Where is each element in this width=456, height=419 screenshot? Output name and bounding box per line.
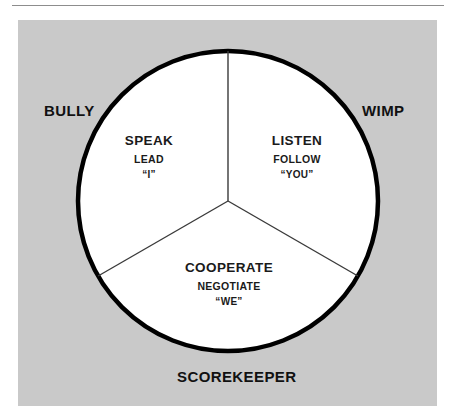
top-divider-rule [12, 5, 444, 6]
outer-label-bully: BULLY [44, 102, 95, 119]
sector-listen-title: LISTEN [252, 134, 342, 148]
sector-listen-pronoun: “YOU” [252, 170, 342, 180]
sector-label-cooperate: COOPERATE NEGOTIATE “WE” [173, 261, 285, 307]
outer-label-wimp: WIMP [362, 102, 404, 119]
sector-cooperate-pronoun: “WE” [173, 297, 285, 307]
sector-label-listen: LISTEN FOLLOW “YOU” [252, 134, 342, 180]
sector-speak-subtitle: LEAD [104, 154, 194, 165]
figure-root: SPEAK LEAD “I” LISTEN FOLLOW “YOU” COOPE… [0, 0, 456, 419]
outer-label-scorekeeper: SCOREKEEPER [177, 368, 279, 385]
pie-chart [74, 47, 382, 355]
sector-cooperate-title: COOPERATE [173, 261, 285, 275]
sector-label-speak: SPEAK LEAD “I” [104, 134, 194, 180]
sector-speak-title: SPEAK [104, 134, 194, 148]
sector-cooperate-subtitle: NEGOTIATE [173, 281, 285, 292]
sector-speak-pronoun: “I” [104, 170, 194, 180]
sector-listen-subtitle: FOLLOW [252, 154, 342, 165]
